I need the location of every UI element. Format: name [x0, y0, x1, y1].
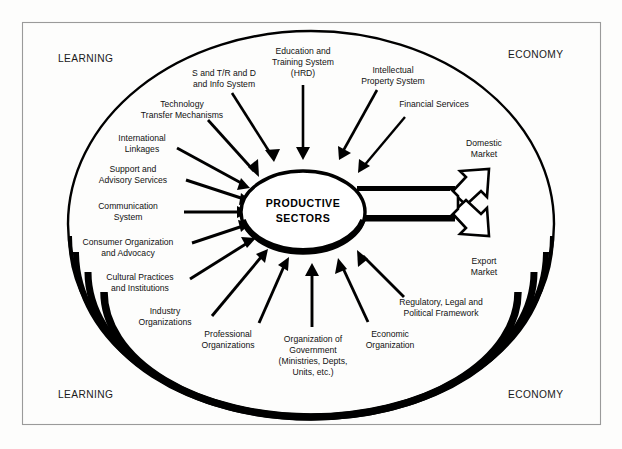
output-bar-export	[357, 215, 455, 222]
arrow-communication-system	[184, 206, 249, 218]
svg-text:Advisory Services: Advisory Services	[99, 175, 167, 185]
svg-text:Units, etc.): Units, etc.)	[292, 367, 333, 377]
input-label-professional-organizations: Professional Organizations	[201, 329, 254, 350]
svg-text:Education and: Education and	[276, 46, 331, 56]
svg-text:Organization: Organization	[366, 340, 415, 350]
productive-sectors-node: PRODUCTIVE SECTORS	[241, 171, 365, 253]
svg-text:International: International	[118, 133, 165, 143]
input-label-s-and-t: S and T/R and D and Info System	[192, 68, 256, 89]
svg-text:and Advocacy: and Advocacy	[101, 248, 155, 258]
svg-text:Economic: Economic	[371, 329, 409, 339]
arrow-education-training	[296, 85, 310, 160]
diagram-canvas: PRODUCTIVE SECTORS LEARNING ECONOMY LEAR…	[0, 0, 622, 449]
svg-text:Linkages: Linkages	[125, 144, 159, 154]
svg-text:and Info System: and Info System	[193, 79, 255, 89]
svg-text:Government: Government	[289, 345, 337, 355]
input-label-technology-transfer: Technology Transfer Mechanisms	[141, 99, 223, 120]
svg-text:Intellectual: Intellectual	[372, 65, 413, 75]
input-label-support-advisory: Support and Advisory Services	[99, 164, 167, 185]
arrow-intellectual-property	[338, 90, 377, 160]
output-arrows-group	[357, 169, 489, 236]
svg-text:Property System: Property System	[361, 76, 425, 86]
input-label-economic-organization: Economic Organization	[366, 329, 415, 350]
svg-text:Market: Market	[471, 267, 498, 277]
input-label-communication-system: Communication System	[98, 201, 158, 222]
svg-text:Organizations: Organizations	[201, 340, 254, 350]
arrow-cultural-practices	[190, 237, 256, 279]
arrow-regulatory-legal	[357, 250, 404, 297]
input-label-regulatory-legal: Regulatory, Legal and Political Framewor…	[399, 297, 483, 318]
svg-text:Organization of: Organization of	[284, 334, 343, 344]
input-label-consumer-organization: Consumer Organization and Advocacy	[83, 237, 174, 258]
svg-text:System: System	[114, 212, 143, 222]
input-label-financial-services: Financial Services	[399, 99, 469, 109]
input-label-international-linkages: International Linkages	[118, 133, 165, 154]
svg-text:Market: Market	[471, 149, 498, 159]
svg-text:Financial Services: Financial Services	[399, 99, 469, 109]
svg-text:Support and: Support and	[110, 164, 157, 174]
diagram-svg: PRODUCTIVE SECTORS LEARNING ECONOMY LEAR…	[0, 0, 622, 449]
svg-text:Political Framework: Political Framework	[404, 308, 480, 318]
arrow-financial-services	[358, 117, 405, 173]
center-label-line1: PRODUCTIVE	[266, 197, 340, 209]
input-label-education-training: Education and Training System (HRD)	[272, 46, 334, 78]
corner-label-learning-bottom: LEARNING	[58, 389, 113, 400]
svg-text:Cultural Practices: Cultural Practices	[106, 272, 173, 282]
svg-text:(Ministries, Depts,: (Ministries, Depts,	[279, 356, 348, 366]
output-bar-domestic	[357, 186, 455, 191]
corner-label-economy-bottom: ECONOMY	[508, 389, 563, 400]
center-label-line2: SECTORS	[276, 212, 331, 224]
input-label-intellectual-property: Intellectual Property System	[361, 65, 425, 86]
svg-text:Communication: Communication	[98, 201, 158, 211]
input-label-cultural-practices: Cultural Practices and Institutions	[106, 272, 173, 293]
svg-text:Transfer Mechanisms: Transfer Mechanisms	[141, 110, 223, 120]
svg-text:Export: Export	[472, 256, 497, 266]
arrow-organization-of-government	[305, 263, 319, 327]
svg-text:Industry: Industry	[150, 306, 181, 316]
svg-text:Domestic: Domestic	[466, 138, 503, 148]
input-label-organization-of-government: Organization of Government (Ministries, …	[279, 334, 348, 377]
svg-text:Consumer Organization: Consumer Organization	[83, 237, 174, 247]
output-label-domestic-market: Domestic Market	[466, 138, 503, 159]
svg-text:Technology: Technology	[160, 99, 204, 109]
corner-label-learning-top: LEARNING	[58, 53, 113, 64]
arrow-s-and-t	[232, 93, 280, 162]
svg-text:(HRD): (HRD)	[291, 68, 315, 78]
arrow-economic-organization	[335, 258, 368, 322]
arrow-professional-organizations	[259, 257, 289, 323]
svg-text:Organizations: Organizations	[138, 317, 191, 327]
output-label-export-market: Export Market	[471, 256, 498, 277]
corner-label-economy-top: ECONOMY	[508, 49, 563, 60]
svg-text:and Institutions: and Institutions	[111, 283, 169, 293]
svg-text:S and T/R and D: S and T/R and D	[192, 68, 256, 78]
svg-text:Professional: Professional	[204, 329, 251, 339]
svg-text:Training System: Training System	[272, 57, 334, 67]
svg-text:Regulatory, Legal and: Regulatory, Legal and	[399, 297, 483, 307]
input-label-industry-organizations: Industry Organizations	[138, 306, 191, 327]
